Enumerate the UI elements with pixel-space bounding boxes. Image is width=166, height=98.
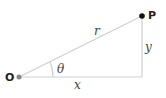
angle-label: θ — [57, 62, 65, 76]
point-p — [139, 13, 145, 19]
horizontal-label: x — [74, 78, 81, 92]
polar-coordinates-diagram: O P r y x θ — [0, 0, 166, 98]
origin-point — [17, 75, 22, 80]
hypotenuse-line — [19, 16, 142, 77]
vertical-label: y — [144, 40, 152, 54]
point-p-label: P — [148, 9, 156, 22]
angle-arc — [50, 62, 53, 77]
origin-label: O — [5, 71, 14, 84]
hypotenuse-label: r — [94, 24, 101, 38]
